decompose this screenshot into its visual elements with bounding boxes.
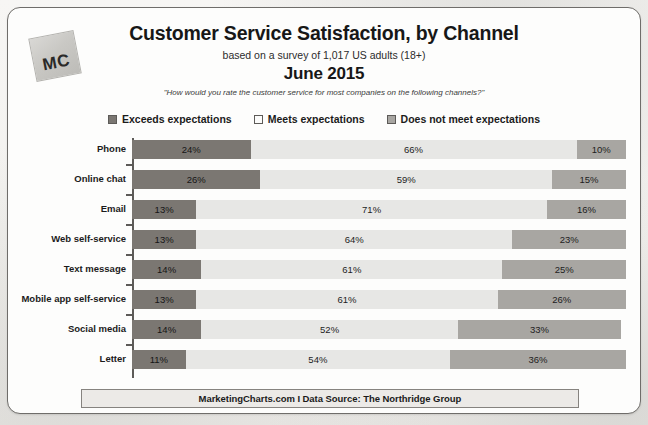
stacked-bar[interactable]: 13%64%23% — [132, 230, 626, 249]
bar-segment[interactable]: 54% — [186, 350, 450, 369]
chart-period: June 2015 — [8, 64, 640, 84]
chart-row: Mobile app self-service13%61%26% — [8, 288, 640, 310]
chart-row: Social media14%52%33% — [8, 318, 640, 340]
bar-value-label: 36% — [528, 354, 547, 365]
axis-tick — [126, 224, 132, 226]
axis-tick — [126, 194, 132, 196]
chart-plot-area: Phone24%66%10%Online chat26%59%15%Email1… — [8, 136, 640, 381]
survey-question: "How would you rate the customer service… — [8, 87, 640, 98]
axis-tick — [126, 164, 132, 166]
chart-row: Email13%71%16% — [8, 198, 640, 220]
stacked-bar[interactable]: 13%71%16% — [132, 200, 626, 219]
legend-item-2[interactable]: Does not meet expectations — [387, 113, 540, 125]
bar-value-label: 16% — [577, 204, 596, 215]
bar-segment[interactable]: 26% — [498, 290, 626, 309]
category-label-web-self-service: Web self-service — [8, 228, 126, 250]
footer-source-text: MarketingCharts.com I Data Source: The N… — [199, 393, 462, 404]
axis-tick — [126, 284, 132, 286]
bar-segment[interactable]: 14% — [132, 320, 201, 339]
bar-value-label: 13% — [155, 234, 174, 245]
bar-segment[interactable]: 61% — [201, 260, 502, 279]
stacked-bar[interactable]: 11%54%36% — [132, 350, 626, 369]
bar-segment[interactable]: 13% — [132, 200, 196, 219]
bar-value-label: 13% — [155, 294, 174, 305]
bar-segment[interactable]: 23% — [512, 230, 626, 249]
bar-segment[interactable]: 24% — [132, 140, 251, 159]
bar-value-label: 14% — [157, 264, 176, 275]
bar-segment[interactable]: 66% — [251, 140, 577, 159]
category-label-text-message: Text message — [8, 258, 126, 280]
bar-segment[interactable]: 61% — [196, 290, 497, 309]
chart-legend: Exceeds expectationsMeets expectationsDo… — [8, 113, 640, 125]
legend-label: Exceeds expectations — [122, 113, 232, 125]
bar-value-label: 26% — [187, 174, 206, 185]
legend-label: Does not meet expectations — [401, 113, 540, 125]
bar-value-label: 13% — [155, 204, 174, 215]
axis-tick — [126, 254, 132, 256]
chart-row: Phone24%66%10% — [8, 138, 640, 160]
category-label-mobile-app-self-service: Mobile app self-service — [8, 288, 126, 310]
legend-item-0[interactable]: Exceeds expectations — [108, 113, 232, 125]
chart-row: Letter11%54%36% — [8, 348, 640, 370]
legend-swatch-icon — [108, 115, 117, 124]
bar-value-label: 11% — [150, 354, 168, 365]
bar-value-label: 66% — [404, 144, 423, 155]
stacked-bar[interactable]: 14%61%25% — [132, 260, 626, 279]
bar-segment[interactable]: 16% — [547, 200, 626, 219]
bar-segment[interactable]: 15% — [552, 170, 626, 189]
bar-segment[interactable]: 64% — [196, 230, 512, 249]
bar-segment[interactable]: 13% — [132, 290, 196, 309]
chart-row: Web self-service13%64%23% — [8, 228, 640, 250]
stacked-bar[interactable]: 24%66%10% — [132, 140, 626, 159]
category-label-online-chat: Online chat — [8, 168, 126, 190]
legend-item-1[interactable]: Meets expectations — [254, 113, 365, 125]
stacked-bar[interactable]: 14%52%33% — [132, 320, 626, 339]
chart-row: Online chat26%59%15% — [8, 168, 640, 190]
bar-segment[interactable]: 52% — [201, 320, 458, 339]
bar-value-label: 71% — [362, 204, 381, 215]
bar-segment[interactable]: 71% — [196, 200, 547, 219]
bar-segment[interactable]: 33% — [458, 320, 621, 339]
chart-row: Text message14%61%25% — [8, 258, 640, 280]
axis-tick — [126, 314, 132, 316]
bar-value-label: 33% — [530, 324, 549, 335]
page-title: Customer Service Satisfaction, by Channe… — [8, 22, 640, 44]
bar-segment[interactable]: 13% — [132, 230, 196, 249]
bar-value-label: 59% — [397, 174, 416, 185]
bar-segment[interactable]: 26% — [132, 170, 260, 189]
bar-value-label: 26% — [552, 294, 571, 305]
chart-header: Customer Service Satisfaction, by Channe… — [8, 22, 640, 98]
bar-segment[interactable]: 10% — [577, 140, 626, 159]
bar-value-label: 54% — [308, 354, 327, 365]
legend-swatch-icon — [254, 115, 263, 124]
bar-segment[interactable]: 36% — [450, 350, 626, 369]
category-label-email: Email — [8, 198, 126, 220]
bar-value-label: 52% — [320, 324, 339, 335]
bar-value-label: 64% — [345, 234, 364, 245]
category-label-phone: Phone — [8, 138, 126, 160]
chart-footer: MarketingCharts.com I Data Source: The N… — [81, 389, 579, 408]
chart-subtitle: based on a survey of 1,017 US adults (18… — [8, 49, 640, 62]
legend-label: Meets expectations — [268, 113, 365, 125]
bar-segment[interactable]: 59% — [260, 170, 551, 189]
chart-card: MC Customer Service Satisfaction, by Cha… — [7, 7, 641, 414]
bar-segment[interactable]: 14% — [132, 260, 201, 279]
bar-value-label: 14% — [157, 324, 176, 335]
stacked-bar[interactable]: 13%61%26% — [132, 290, 626, 309]
bar-value-label: 23% — [560, 234, 579, 245]
category-label-letter: Letter — [8, 348, 126, 370]
category-label-social-media: Social media — [8, 318, 126, 340]
bar-value-label: 61% — [342, 264, 361, 275]
legend-swatch-icon — [387, 115, 396, 124]
bar-value-label: 10% — [592, 144, 611, 155]
bar-segment[interactable]: 25% — [502, 260, 626, 279]
axis-tick — [126, 344, 132, 346]
bar-value-label: 61% — [337, 294, 356, 305]
bar-segment[interactable]: 11% — [132, 350, 186, 369]
bar-value-label: 15% — [579, 174, 598, 185]
bar-value-label: 24% — [182, 144, 201, 155]
stacked-bar[interactable]: 26%59%15% — [132, 170, 626, 189]
bar-value-label: 25% — [555, 264, 574, 275]
